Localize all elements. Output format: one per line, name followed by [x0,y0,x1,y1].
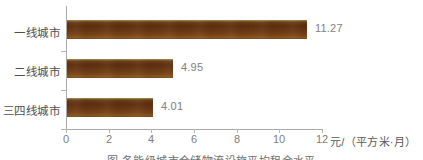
bar-chart: 一线城市 11.27 二线城市 4.95 三四线城市 4.01 0 2 4 6 … [0,0,423,160]
category-label-0: 一线城市 [0,24,60,40]
bar-value-0: 11.27 [315,22,343,34]
bar-0[interactable] [67,20,307,39]
category-label-2: 三四线城市 [0,102,60,118]
x-tick-label-3: 6 [191,133,197,145]
x-tick-label-4: 8 [234,133,240,145]
x-tick-label-5: 10 [273,133,285,145]
bar-value-2: 4.01 [161,100,183,112]
y-axis-tick [61,90,67,91]
bar-row: 4.95 [67,59,173,78]
bar-row: 11.27 [67,20,307,39]
category-label-1: 二线城市 [0,63,60,79]
bar-2[interactable] [67,98,153,117]
figure-caption: 图 各能级城市仓储物流设施平均租金水平 [0,152,423,160]
x-axis-unit-label: 元/（平方米·月） [330,133,416,149]
x-tick-label-0: 0 [63,133,69,145]
y-axis-tick [61,51,67,52]
x-tick-label-1: 2 [106,133,112,145]
bar-value-1: 4.95 [181,61,203,73]
bar-row: 4.01 [67,98,153,117]
x-tick-label-2: 4 [148,133,154,145]
bar-1[interactable] [67,59,173,78]
x-tick-label-6: 12 [316,133,328,145]
